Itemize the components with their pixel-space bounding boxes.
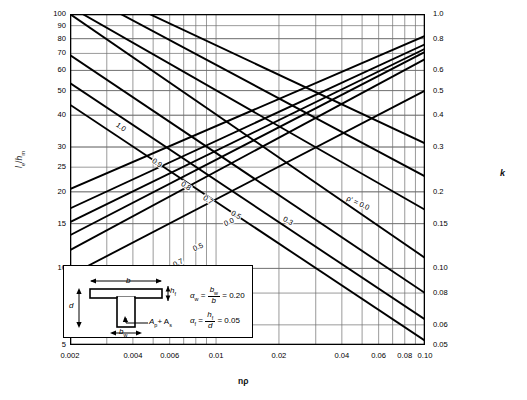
beam-section-inset: b d hf bw Ap+ As αw = bw b = 0.20 αf = (63, 265, 253, 338)
x-tick-0.08: 0.08 (397, 351, 412, 360)
inset-dim-d: d (69, 301, 73, 310)
formula-alpha-w: αw = bw b = 0.20 (190, 286, 245, 306)
k-curve-0.8 (70, 52, 425, 235)
chart-page: le/hm k nρ 10090807060504030252015105 1.… (0, 0, 527, 400)
y-tick-5: 5 (38, 340, 66, 349)
y-tick-90: 90 (38, 21, 66, 30)
k-tick-1.0: 1.0 (433, 9, 444, 18)
x-tick-0.01: 0.01 (209, 351, 224, 360)
k-tick-0.05: 0.05 (433, 340, 448, 349)
y-tick-10: 10 (38, 263, 66, 272)
k-tick-0.6: 0.6 (433, 65, 444, 74)
k-tick-0.4: 0.4 (433, 110, 444, 119)
y-tick-80: 80 (38, 34, 66, 43)
inset-dim-hf: hf (170, 286, 176, 297)
k-tick-0.15: 0.15 (433, 219, 448, 228)
x-axis-label: nρ (238, 376, 248, 386)
k-axis-label: k (500, 168, 505, 178)
k-curve-0.0 (70, 36, 425, 189)
inset-steel-label: Ap+ As (149, 317, 172, 328)
k-tick-0.06: 0.06 (433, 320, 448, 329)
y-tick-50: 50 (38, 86, 66, 95)
x-tick-0.04: 0.04 (334, 351, 349, 360)
x-tick-0.004: 0.004 (123, 351, 142, 360)
y-tick-70: 70 (38, 48, 66, 57)
y-tick-20: 20 (38, 187, 66, 196)
x-tick-0.02: 0.02 (272, 351, 287, 360)
y-tick-25: 25 (38, 162, 66, 171)
x-tick-0.10: 0.10 (418, 351, 433, 360)
k-tick-0.5: 0.5 (433, 86, 444, 95)
x-tick-0.002: 0.002 (60, 351, 79, 360)
k-tick-0.08: 0.08 (433, 288, 448, 297)
y-tick-40: 40 (38, 110, 66, 119)
y-tick-100: 100 (38, 9, 66, 18)
k-tick-0.8: 0.8 (433, 34, 444, 43)
inset-dim-bw: bw (119, 327, 127, 338)
y-tick-60: 60 (38, 65, 66, 74)
k-tick-0.2: 0.2 (433, 187, 444, 196)
y-tick-15: 15 (38, 219, 66, 228)
k-tick-0.10: 0.10 (433, 263, 448, 272)
k-curve-0.7 (70, 49, 425, 222)
inset-dim-b: b (126, 276, 130, 285)
formula-alpha-f: αf = hf d = 0.05 (190, 311, 240, 331)
y-axis-label-text: le/hm (14, 151, 24, 168)
x-tick-0.006: 0.006 (160, 351, 179, 360)
y-axis-label: le/hm (14, 151, 26, 168)
y-tick-30: 30 (38, 142, 66, 151)
k-tick-0.3: 0.3 (433, 142, 444, 151)
x-tick-0.06: 0.06 (371, 351, 386, 360)
